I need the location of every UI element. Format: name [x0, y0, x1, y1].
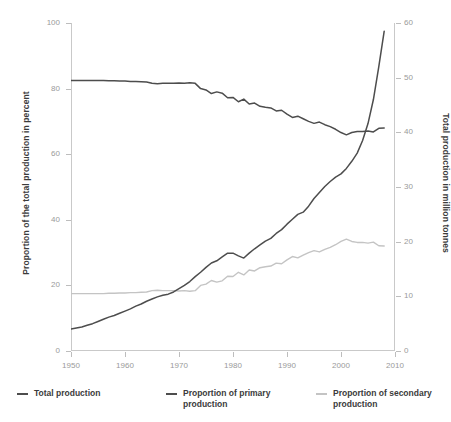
- x-axis-tick-mark: [233, 352, 234, 357]
- x-axis-tick-mark: [341, 352, 342, 357]
- x-axis-tick-mark: [395, 352, 396, 357]
- plot-area: [71, 23, 395, 351]
- y-axis-left-tick-label: 0: [34, 346, 60, 355]
- y-axis-right-tick-mark: [396, 23, 401, 24]
- y-axis-left-tick-label: 20: [34, 280, 60, 289]
- y-axis-right-tick-mark: [396, 351, 401, 352]
- line-proportion-primary-production: [71, 80, 384, 134]
- y-axis-right-tick-label: 30: [404, 182, 430, 191]
- x-axis-tick-mark: [287, 352, 288, 357]
- y-axis-right-tick-label: 0: [404, 346, 430, 355]
- series-lines: [71, 23, 395, 351]
- y-axis-right-tick-label: 50: [404, 73, 430, 82]
- y-axis-right-tick-label: 60: [404, 18, 430, 27]
- line-proportion-secondary-production: [71, 239, 384, 293]
- x-axis-tick-label: 1990: [267, 361, 307, 370]
- legend-swatch-primary-production: [166, 393, 177, 395]
- x-axis-tick-mark: [179, 352, 180, 357]
- x-axis-tick-label: 1970: [159, 361, 199, 370]
- y-axis-right-tick-label: 20: [404, 237, 430, 246]
- legend-item-secondary-production: Proportion of secondary production: [316, 388, 437, 410]
- y-axis-right-tick-label: 10: [404, 291, 430, 300]
- x-axis-tick-label: 1980: [213, 361, 253, 370]
- y-axis-left-tick-label: 40: [34, 215, 60, 224]
- legend-label-secondary-production: Proportion of secondary production: [333, 388, 437, 410]
- legend-label-primary-production: Proportion of primary production: [183, 388, 287, 410]
- x-axis-tick-mark: [125, 352, 126, 357]
- legend-swatch-secondary-production: [316, 393, 327, 395]
- y-axis-right-tick-mark: [396, 132, 401, 133]
- y-axis-right-tick-mark: [396, 296, 401, 297]
- x-axis-tick-label: 1960: [105, 361, 145, 370]
- legend-item-total-production: Total production: [17, 388, 100, 399]
- y-axis-right-title: Total production in million tonnes: [441, 73, 451, 293]
- x-axis-tick-label: 1950: [51, 361, 91, 370]
- y-axis-left-title: Proportion of the total production in pe…: [21, 73, 31, 293]
- y-axis-right-tick-mark: [396, 78, 401, 79]
- x-axis-tick-mark: [71, 352, 72, 357]
- x-axis-tick-label: 2000: [321, 361, 361, 370]
- y-axis-left-tick-label: 80: [34, 84, 60, 93]
- chart-legend: Total production Proportion of primary p…: [0, 388, 448, 422]
- line-total-production: [71, 31, 384, 329]
- y-axis-right-tick-mark: [396, 242, 401, 243]
- legend-item-primary-production: Proportion of primary production: [166, 388, 287, 410]
- y-axis-right-tick-label: 40: [404, 127, 430, 136]
- y-axis-left-tick-label: 100: [34, 18, 60, 27]
- legend-swatch-total-production: [17, 393, 28, 395]
- y-axis-right-tick-mark: [396, 187, 401, 188]
- x-axis-tick-label: 2010: [375, 361, 415, 370]
- y-axis-left-tick-label: 60: [34, 149, 60, 158]
- legend-label-total-production: Total production: [34, 388, 100, 399]
